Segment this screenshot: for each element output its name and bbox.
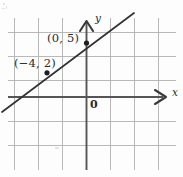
axis-arrowheads bbox=[80, 21, 166, 104]
scan-artifact bbox=[2, 8, 5, 9]
point-label-0-5: (0, 5) bbox=[47, 33, 79, 45]
scan-artifact bbox=[55, 147, 59, 149]
point-label-neg4-2: (−4, 2) bbox=[14, 58, 56, 70]
grid-lines bbox=[8, 18, 176, 170]
graph-canvas bbox=[0, 0, 183, 177]
y-axis-label: y bbox=[95, 13, 101, 24]
scan-artifact bbox=[3, 3, 5, 5]
point-marker-0-5 bbox=[84, 40, 89, 45]
origin-label: 0 bbox=[90, 99, 98, 110]
point-marker-neg4-2 bbox=[44, 70, 49, 75]
x-axis-label: x bbox=[172, 87, 178, 98]
coordinate-plane-figure: (−4, 2) (0, 5) 0 x y bbox=[0, 0, 183, 177]
scan-artifact bbox=[6, 6, 7, 9]
